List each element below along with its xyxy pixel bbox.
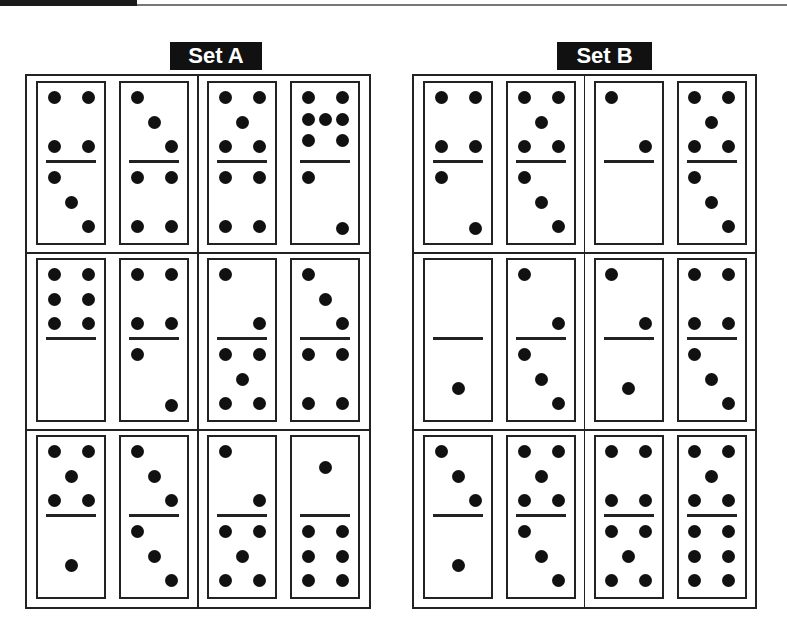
- pip-dot: [535, 116, 548, 129]
- pip-dot: [253, 220, 266, 233]
- domino-tile[interactable]: [423, 81, 493, 245]
- pip-dot: [319, 113, 332, 126]
- domino-divider-bar: [687, 337, 737, 340]
- domino-tile[interactable]: [506, 81, 576, 245]
- pip-dot: [452, 382, 465, 395]
- pip-dot: [219, 171, 232, 184]
- domino-tile[interactable]: [207, 258, 277, 422]
- domino-tile[interactable]: [677, 258, 747, 422]
- pip-dot: [435, 171, 448, 184]
- pip-dot: [705, 116, 718, 129]
- domino-divider-bar: [300, 160, 350, 163]
- pip-dot: [518, 445, 531, 458]
- pip-dot: [219, 574, 232, 587]
- domino-tile[interactable]: [119, 258, 189, 422]
- pip-dot: [605, 525, 618, 538]
- domino-divider-bar: [300, 337, 350, 340]
- domino-tile[interactable]: [506, 435, 576, 599]
- domino-divider-bar: [516, 514, 566, 517]
- pip-dot: [253, 397, 266, 410]
- domino-tile[interactable]: [594, 258, 664, 422]
- pip-dot: [82, 268, 95, 281]
- pip-dot: [722, 550, 735, 563]
- domino-divider-bar: [129, 514, 179, 517]
- pip-dot: [552, 317, 565, 330]
- pip-dot: [722, 574, 735, 587]
- pip-dot: [688, 494, 701, 507]
- pip-dot: [552, 574, 565, 587]
- domino-tile[interactable]: [36, 258, 106, 422]
- pip-dot: [253, 574, 266, 587]
- pip-dot: [165, 317, 178, 330]
- pip-dot: [82, 293, 95, 306]
- pip-dot: [336, 525, 349, 538]
- pip-dot: [518, 268, 531, 281]
- pip-dot: [552, 220, 565, 233]
- pip-dot: [688, 140, 701, 153]
- domino-tile[interactable]: [36, 435, 106, 599]
- pip-dot: [148, 550, 161, 563]
- pip-dot: [148, 470, 161, 483]
- domino-tile[interactable]: [594, 435, 664, 599]
- domino-divider-bar: [604, 160, 654, 163]
- domino-tile[interactable]: [677, 81, 747, 245]
- domino-tile[interactable]: [290, 81, 360, 245]
- domino-tile[interactable]: [207, 81, 277, 245]
- domino-tile[interactable]: [119, 81, 189, 245]
- pip-dot: [131, 525, 144, 538]
- pip-dot: [131, 91, 144, 104]
- pip-dot: [452, 470, 465, 483]
- domino-divider-bar: [516, 160, 566, 163]
- row-divider: [414, 252, 755, 254]
- pip-dot: [622, 382, 635, 395]
- pip-dot: [48, 268, 61, 281]
- domino-divider-bar: [300, 514, 350, 517]
- pip-dot: [722, 268, 735, 281]
- domino-tile[interactable]: [423, 435, 493, 599]
- domino-tile[interactable]: [423, 258, 493, 422]
- pip-dot: [236, 373, 249, 386]
- domino-tile[interactable]: [119, 435, 189, 599]
- pip-dot: [236, 116, 249, 129]
- pip-dot: [469, 222, 482, 235]
- domino-tile[interactable]: [594, 81, 664, 245]
- header-rule: [137, 4, 787, 6]
- pip-dot: [336, 317, 349, 330]
- pip-dot: [131, 348, 144, 361]
- pip-dot: [82, 140, 95, 153]
- domino-tile[interactable]: [290, 435, 360, 599]
- pip-dot: [518, 494, 531, 507]
- pip-dot: [688, 525, 701, 538]
- pip-dot: [435, 140, 448, 153]
- pip-dot: [639, 317, 652, 330]
- pip-dot: [722, 91, 735, 104]
- pip-dot: [165, 574, 178, 587]
- pip-dot: [705, 196, 718, 209]
- pip-dot: [48, 445, 61, 458]
- domino-tile[interactable]: [290, 258, 360, 422]
- pip-dot: [165, 171, 178, 184]
- pip-dot: [336, 91, 349, 104]
- domino-divider-bar: [604, 337, 654, 340]
- domino-tile[interactable]: [677, 435, 747, 599]
- pip-dot: [131, 220, 144, 233]
- pip-dot: [705, 373, 718, 386]
- domino-divider-bar: [433, 514, 483, 517]
- domino-divider-bar: [46, 514, 96, 517]
- pip-dot: [82, 494, 95, 507]
- domino-tile[interactable]: [36, 81, 106, 245]
- pip-dot: [435, 445, 448, 458]
- pip-dot: [336, 348, 349, 361]
- pip-dot: [688, 317, 701, 330]
- pip-dot: [302, 550, 315, 563]
- pip-dot: [605, 494, 618, 507]
- pip-dot: [469, 91, 482, 104]
- pip-dot: [518, 348, 531, 361]
- domino-tile[interactable]: [506, 258, 576, 422]
- domino-tile[interactable]: [207, 435, 277, 599]
- pip-dot: [219, 525, 232, 538]
- pip-dot: [535, 373, 548, 386]
- pip-dot: [302, 397, 315, 410]
- pip-dot: [639, 574, 652, 587]
- pip-dot: [518, 91, 531, 104]
